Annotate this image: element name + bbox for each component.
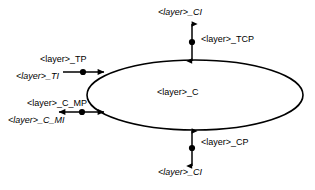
label-top-interface: <layer>_CI xyxy=(158,8,202,17)
label-bottom-port: <layer>_CP xyxy=(201,138,249,147)
label-left-top-interface: <layer>_TI xyxy=(16,72,59,81)
label-left-mid-port: <layer>_C_MP xyxy=(27,99,87,108)
bottom-port-marker-icon[interactable] xyxy=(189,145,195,151)
left-mid-port-marker-icon[interactable] xyxy=(79,109,85,115)
label-left-mid-interface: <layer>_C_MI xyxy=(8,116,65,125)
label-bottom-interface: <layer>_CI xyxy=(158,168,202,177)
label-node-center: <layer>_C xyxy=(157,88,199,97)
label-top-port: <layer>_TCP xyxy=(201,35,254,44)
top-port-marker-icon[interactable] xyxy=(189,39,195,45)
left-top-port-marker-icon[interactable] xyxy=(80,69,86,75)
label-left-top-port: <layer>_TP xyxy=(40,55,87,64)
diagram-canvas: <layer>_CI <layer>_TCP <layer>_TP <layer… xyxy=(0,0,315,190)
